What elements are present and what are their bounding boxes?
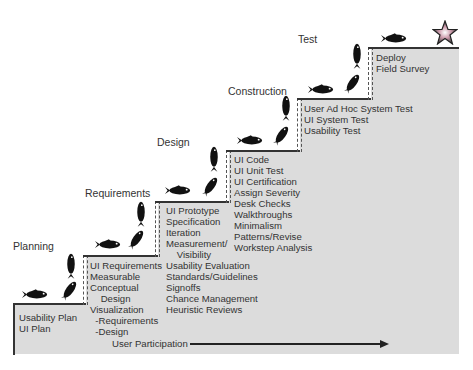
- fish-icon: [343, 73, 361, 95]
- user-participation-arrow: [190, 343, 380, 345]
- step-top-6: [368, 47, 459, 49]
- fish-icon: [201, 176, 219, 198]
- left-edge: [13, 303, 15, 355]
- step-riser-2: [83, 255, 88, 305]
- step-items-deploy: Deploy Field Survey: [376, 52, 429, 74]
- arrow-head-icon: [380, 340, 389, 348]
- fish-icon: [308, 84, 334, 95]
- fish-icon: [272, 125, 290, 147]
- step-top-3: [155, 201, 229, 203]
- fish-icon: [22, 289, 48, 300]
- phase-requirements: Requirements: [85, 187, 150, 199]
- step-riser-5: [297, 98, 302, 152]
- step-riser-4: [226, 150, 231, 203]
- step-top-4: [226, 150, 300, 152]
- fish-icon: [136, 200, 146, 227]
- phase-design: Design: [157, 136, 190, 148]
- star-icon: [432, 20, 458, 45]
- phase-planning: Planning: [13, 240, 54, 252]
- fish-icon: [95, 239, 121, 250]
- step-top-2: [83, 255, 158, 257]
- fish-icon: [127, 229, 145, 251]
- fish-icon: [237, 135, 263, 146]
- fish-icon: [352, 42, 362, 69]
- step-items-requirements: UI Requirements Measurable Conceptual De…: [90, 260, 162, 337]
- fish-icon: [209, 145, 219, 172]
- fish-icon: [281, 94, 291, 121]
- fish-icon: [165, 185, 191, 196]
- step-items-test: User Ad Hoc System Test UI System Test U…: [304, 103, 413, 136]
- step-riser-3: [155, 201, 160, 257]
- phase-construction: Construction: [228, 85, 287, 97]
- step-top-1: [13, 303, 86, 305]
- phase-test: Test: [298, 33, 317, 45]
- step-top-5: [297, 98, 371, 100]
- fish-icon: [66, 252, 76, 279]
- step-items-construction: UI Code UI Unit Test UI Certification As…: [234, 154, 312, 253]
- user-participation-label: User Participation: [112, 338, 188, 349]
- fish-icon: [381, 33, 407, 44]
- step-items-planning: Usability Plan UI Plan: [19, 312, 77, 334]
- fish-icon: [60, 280, 78, 302]
- step-riser-6: [368, 47, 373, 100]
